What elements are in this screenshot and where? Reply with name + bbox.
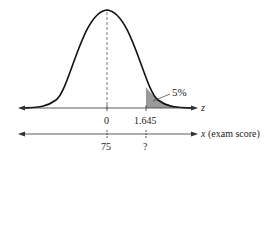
x-axis-left-arrow-icon [18,132,25,137]
shaded-area-label: 5% [172,87,187,98]
x-axis-right-arrow-icon [191,132,198,137]
x-axis-desc: (exam score) [208,128,260,139]
x-tick-label-unknown: ? [143,142,147,152]
x-axis-var: x [201,128,205,139]
x-axis-label: x (exam score) [201,129,260,139]
x-tick-label-75: 75 [101,142,111,152]
z-tick-label-1645: 1.645 [134,116,157,126]
z-axis-label: z [201,103,205,113]
z-axis-left-arrow-icon [18,106,25,111]
z-tick-label-0: 0 [104,116,109,126]
z-axis-right-arrow-icon [191,106,198,111]
shaded-tail-region [146,87,194,108]
